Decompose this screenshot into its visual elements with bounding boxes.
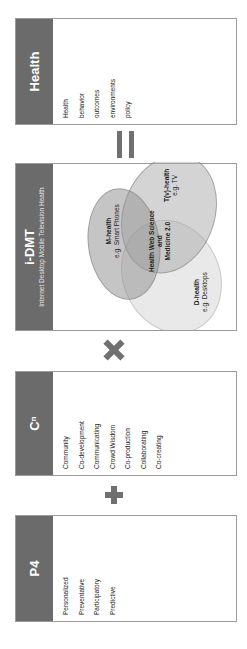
list-item: Crowd Wisdom (105, 421, 121, 469)
list-item: Predictive (105, 577, 121, 615)
cn-list: Community Co-development Communicating C… (58, 421, 167, 469)
center-label: Health Web Science and Medicine 2.0 (148, 210, 172, 272)
equals-icon (117, 131, 122, 158)
cn-header: Cⁿ (16, 372, 53, 475)
cn-title: Cⁿ (28, 416, 42, 431)
health-box: Health Health behavior outcomes environm… (15, 18, 237, 125)
list-item: outcomes (89, 79, 105, 118)
health-title: Health (28, 52, 42, 92)
list-item: Personalized (58, 577, 74, 615)
list-item: Community (58, 421, 74, 469)
list-item: Communicating (89, 421, 105, 469)
idmt-title: i-DMT (23, 229, 37, 265)
tv-health-sub: e.g. TV (171, 175, 178, 196)
list-item: Health (58, 79, 74, 118)
idmt-header: i-DMT Internet Desktop Mobile Television… (16, 164, 53, 330)
list-item: Co-creating (151, 421, 167, 469)
venn-diagram: M-health e.g. Smart Phones Health Web Sc… (53, 162, 238, 330)
p4-box: P4 Personalized Preventative Participato… (15, 515, 237, 622)
tv-health-label: T(v)-health e.g. TV (163, 169, 179, 202)
center-line: Medicine 2.0 (164, 222, 171, 261)
idmt-subtitle: Internet Desktop Mobile Television Healt… (38, 187, 46, 306)
center-line: and (156, 235, 163, 247)
list-item: Co-development (74, 421, 90, 469)
times-icon (104, 340, 124, 360)
center-line: Health Web Science (148, 210, 155, 272)
cn-box: Cⁿ Community Co-development Communicatin… (15, 371, 237, 476)
list-item: Participatory (89, 577, 105, 615)
plus-icon-vertical (105, 492, 123, 498)
tv-health-title: T(v)-health (163, 169, 170, 202)
list-item: Collaborating (136, 421, 152, 469)
list-item: environments (105, 79, 121, 118)
health-header: Health (16, 19, 53, 124)
d-health-label: D-health e.g. Desktops (193, 272, 209, 312)
list-item: policy (120, 79, 136, 118)
list-item: Preventative (74, 577, 90, 615)
m-health-sub: e.g. Smart Phones (113, 204, 120, 258)
d-health-title: D-health (193, 279, 200, 305)
list-item: Co-production (120, 421, 136, 469)
p4-list: Personalized Preventative Participatory … (58, 577, 120, 615)
p4-header: P4 (16, 516, 53, 621)
m-health-title: M-health (105, 218, 112, 245)
p4-title: P4 (28, 561, 42, 577)
d-health-sub: e.g. Desktops (201, 272, 208, 312)
list-item: behavior (74, 79, 90, 118)
diagram-stage: P4 Personalized Preventative Participato… (0, 0, 247, 649)
idmt-box: i-DMT Internet Desktop Mobile Television… (15, 163, 237, 331)
m-health-label: M-health e.g. Smart Phones (105, 204, 121, 258)
health-list: Health behavior outcomes environments po… (58, 79, 136, 118)
equals-icon-bar (129, 131, 134, 158)
